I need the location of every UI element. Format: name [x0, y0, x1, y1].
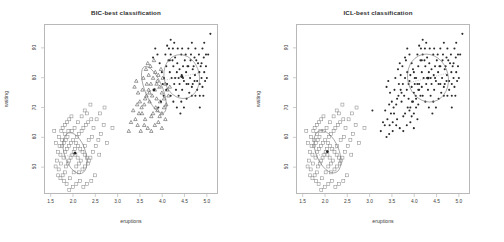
data-point — [454, 95, 456, 97]
data-point — [168, 48, 170, 50]
data-point — [449, 62, 451, 64]
data-point — [195, 59, 197, 61]
y-tick-label: 80 — [32, 71, 37, 83]
data-point — [308, 150, 311, 153]
data-point — [82, 186, 85, 189]
data-point — [396, 118, 398, 120]
data-point — [311, 177, 314, 180]
data-point — [66, 136, 69, 139]
data-point — [59, 162, 62, 165]
data-point — [406, 124, 408, 126]
data-point — [100, 133, 103, 136]
data-point — [93, 174, 96, 177]
data-point — [450, 71, 452, 73]
data-point — [198, 53, 200, 55]
data-point — [429, 48, 431, 50]
data-point — [140, 112, 143, 115]
data-point — [321, 156, 324, 159]
data-point — [346, 144, 349, 147]
x-tick-label: 1.5 — [47, 199, 54, 204]
data-point — [65, 183, 68, 186]
data-point — [358, 141, 361, 144]
data-point — [329, 144, 332, 147]
data-point — [183, 80, 185, 82]
data-point — [164, 53, 166, 55]
data-point — [185, 71, 187, 73]
panel-title-icl: ICL-best classification — [252, 9, 504, 16]
data-point — [330, 180, 333, 183]
data-point — [434, 77, 436, 79]
data-point — [347, 118, 350, 121]
data-point — [196, 80, 198, 82]
data-point — [450, 53, 452, 55]
data-point — [444, 68, 446, 70]
data-point — [451, 95, 453, 97]
data-point — [163, 95, 165, 97]
data-point — [445, 56, 447, 58]
data-point — [328, 156, 331, 159]
data-point — [423, 77, 425, 79]
data-point — [317, 183, 320, 186]
data-point — [355, 106, 358, 109]
data-point — [194, 48, 196, 50]
data-point — [311, 162, 314, 165]
data-point — [408, 109, 410, 111]
data-point — [415, 77, 417, 79]
data-point — [205, 65, 207, 67]
y-tick-label: 50 — [284, 161, 289, 173]
data-point — [456, 80, 458, 82]
x-tick-label: 5.0 — [456, 199, 463, 204]
data-point — [184, 59, 186, 61]
data-point — [178, 68, 180, 70]
data-point — [409, 106, 411, 108]
data-point — [428, 62, 430, 64]
data-point — [99, 112, 102, 115]
data-point — [192, 68, 194, 70]
data-point — [206, 77, 208, 79]
data-point — [142, 76, 145, 79]
data-point — [406, 48, 408, 50]
data-point — [435, 80, 437, 82]
data-point — [316, 150, 319, 153]
data-point — [419, 95, 421, 97]
data-point — [203, 56, 205, 58]
data-point — [382, 121, 384, 123]
data-point — [168, 85, 171, 88]
plot-canvas-icl — [297, 25, 469, 193]
data-point — [191, 42, 193, 44]
data-point — [322, 115, 325, 118]
data-point — [424, 65, 426, 67]
data-point — [418, 83, 420, 85]
data-point — [85, 124, 88, 127]
cluster-center-marker — [427, 77, 430, 80]
data-point — [342, 118, 345, 121]
data-point — [417, 89, 419, 91]
data-point — [313, 174, 316, 177]
data-point — [431, 112, 433, 114]
data-point — [414, 83, 416, 85]
data-point — [400, 89, 402, 91]
data-point — [332, 130, 335, 133]
data-point — [321, 177, 324, 180]
data-point — [440, 92, 442, 94]
data-point — [91, 136, 94, 139]
data-point — [151, 76, 154, 79]
data-point — [328, 136, 331, 139]
data-point — [79, 159, 82, 162]
data-point — [182, 65, 184, 67]
x-tick-label: 4.5 — [181, 199, 188, 204]
data-point — [161, 71, 163, 73]
data-point — [425, 42, 427, 44]
data-point — [77, 162, 80, 165]
data-point — [329, 121, 332, 124]
data-point — [415, 98, 417, 100]
data-point — [154, 48, 156, 50]
panel-bic: BIC-best classification 1.52.02.53.03.54… — [0, 0, 252, 242]
data-point — [88, 159, 91, 162]
data-point — [309, 168, 312, 171]
data-point — [408, 80, 410, 82]
data-point — [55, 141, 58, 144]
data-point — [314, 156, 317, 159]
data-point — [384, 109, 386, 111]
data-point — [64, 138, 67, 141]
